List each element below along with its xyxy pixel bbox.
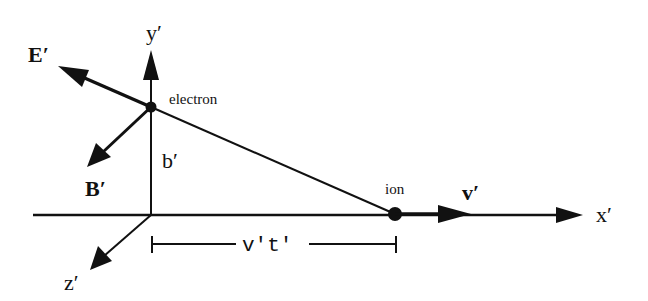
y-axis-arrow-icon	[143, 50, 159, 80]
electron-label: electron	[169, 91, 218, 107]
x-axis-arrow-icon	[556, 207, 583, 223]
displacement-label: v′t′	[242, 234, 292, 257]
y-axis-label: y′	[146, 20, 162, 45]
electron-dot	[146, 102, 157, 113]
electric-field-vector	[58, 66, 151, 107]
ion-electron-field-diagram: x′ y′ z′ E′ B′ electron b′ ion v′	[0, 0, 648, 301]
z-axis-label: z′	[64, 270, 79, 295]
y-axis	[143, 50, 159, 215]
velocity-vector	[395, 205, 471, 223]
magnetic-field-vector	[87, 107, 151, 167]
electric-field-label: E′	[28, 42, 49, 67]
z-axis	[90, 215, 151, 270]
x-axis	[33, 207, 583, 223]
x-axis-label: x′	[596, 202, 612, 227]
magnetic-field-label: B′	[85, 176, 106, 201]
velocity-arrow-icon	[438, 205, 471, 223]
impact-parameter-label: b′	[162, 148, 178, 173]
electric-field-arrow-icon	[58, 66, 89, 87]
z-axis-arrow-icon	[90, 246, 112, 270]
ion-label: ion	[385, 181, 405, 197]
electron-ion-line	[151, 107, 395, 214]
velocity-label: v′	[462, 180, 479, 205]
